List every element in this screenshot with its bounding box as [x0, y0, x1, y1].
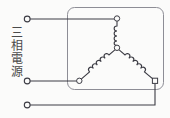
coil-phase-1	[114, 21, 117, 46]
wire-phase-3	[30, 84, 155, 105]
source-label: 三相電源	[4, 26, 22, 88]
schematic-canvas: 三相電源	[0, 0, 170, 118]
source-terminal-phase-2	[24, 78, 30, 84]
source-terminal-phase-3	[24, 102, 30, 108]
load-terminal-right	[152, 78, 157, 83]
source-terminal-phase-1	[24, 16, 30, 22]
coil-phase-2	[82, 50, 115, 79]
load-terminal-left	[77, 78, 82, 83]
load-terminal-top	[114, 16, 119, 21]
coil-phase-3	[119, 50, 152, 79]
neutral-node	[114, 45, 119, 50]
three-phase-wye-diagram	[0, 0, 170, 118]
